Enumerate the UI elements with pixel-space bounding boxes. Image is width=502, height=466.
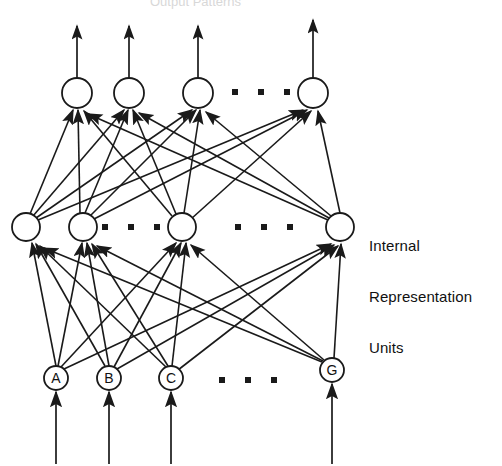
ellipsis-dot xyxy=(261,224,267,230)
edge-hid1-out1 xyxy=(30,110,73,214)
input-arrows xyxy=(56,384,332,464)
ellipsis-output-layer xyxy=(232,89,290,95)
edge-hid4-out3 xyxy=(206,112,331,216)
node-out4[interactable] xyxy=(298,78,328,108)
node-inC-label: C xyxy=(166,370,176,386)
node-hid3[interactable] xyxy=(168,213,196,241)
ellipsis-dot xyxy=(235,224,241,230)
ellipsis-dot xyxy=(284,89,290,95)
layer-input-units: A B C G xyxy=(44,358,344,390)
node-out2[interactable] xyxy=(114,78,144,108)
ellipsis-dot xyxy=(287,224,293,230)
edge-hid4-out4 xyxy=(318,111,340,213)
edge-inG-hid4 xyxy=(334,244,341,358)
edge-hid3-out3 xyxy=(184,110,200,213)
edge-hid3-out1 xyxy=(84,111,172,216)
node-inA-label: A xyxy=(51,370,61,386)
layer-internal-representation-units xyxy=(12,213,354,241)
node-hid4[interactable] xyxy=(326,213,354,241)
edge-inC-hid3 xyxy=(172,243,186,366)
edge-inA-hid1 xyxy=(32,243,56,366)
internal-representation-units-label: Internal Representation Units xyxy=(369,203,472,390)
edge-hid2-out2 xyxy=(85,110,128,213)
ellipsis-dot xyxy=(154,224,160,230)
node-inG-label: G xyxy=(327,362,338,378)
node-out1[interactable] xyxy=(62,78,92,108)
side-label-line-3: Units xyxy=(369,339,472,356)
side-label-line-1: Internal xyxy=(369,237,472,254)
edges-hidden-to-output xyxy=(30,110,340,220)
ellipsis-dot xyxy=(102,224,108,230)
ellipsis-dot xyxy=(245,377,251,383)
ellipsis-dot xyxy=(232,89,238,95)
node-inB-label: B xyxy=(104,370,113,386)
ellipsis-hidden-layer xyxy=(102,224,293,230)
ellipsis-dot xyxy=(128,224,134,230)
node-hid2[interactable] xyxy=(69,213,97,241)
ellipsis-dot xyxy=(271,377,277,383)
output-arrows xyxy=(77,20,313,78)
ellipsis-dot xyxy=(219,377,225,383)
edge-hid3-out4 xyxy=(191,111,311,219)
figure-canvas: Output Patterns xyxy=(0,0,502,466)
node-out3[interactable] xyxy=(183,78,213,108)
node-hid1[interactable] xyxy=(12,213,40,241)
edge-hid2-out1 xyxy=(78,110,80,213)
ellipsis-dot xyxy=(258,89,264,95)
edge-inB-hid1 xyxy=(36,244,105,366)
side-label-line-2: Representation xyxy=(369,288,472,305)
edges-input-to-hidden xyxy=(32,243,341,370)
ellipsis-input-layer xyxy=(219,377,277,383)
edge-inB-hid2 xyxy=(87,243,109,366)
